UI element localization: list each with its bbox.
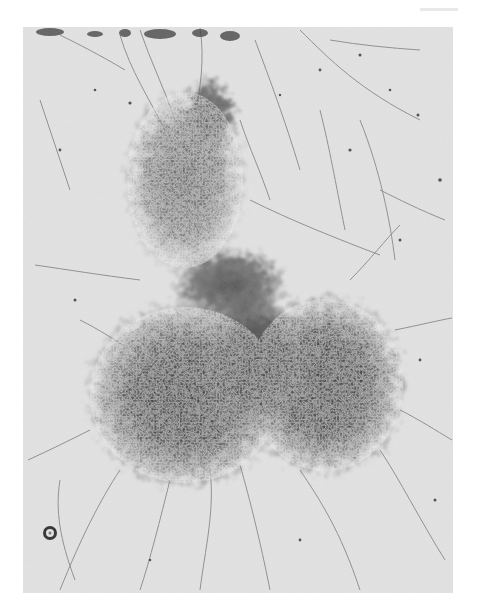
corner-mark: [420, 8, 458, 11]
colony-illustration: [23, 27, 453, 593]
micrograph: [23, 27, 453, 593]
